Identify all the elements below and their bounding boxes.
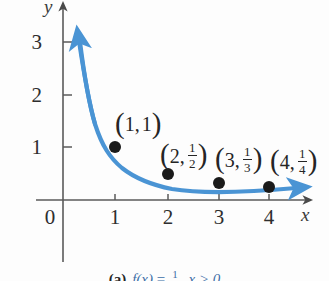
paren-close: ) — [253, 146, 263, 171]
coord-x: 2 — [170, 146, 180, 166]
fraction-one-third: 1 3 — [243, 145, 252, 175]
caption-letter: (a) — [109, 271, 127, 281]
y-tick-label-1: 1 — [22, 137, 42, 158]
x-tick-label-3: 3 — [208, 207, 230, 228]
point-label-1-1: ( 1 , 1 ) — [115, 112, 161, 137]
x-tick-label-1: 1 — [104, 207, 126, 228]
point-label-2-one-half: ( 2 , 1 2 ) — [160, 141, 207, 171]
caption-fraction: 1 x — [171, 269, 179, 281]
paren-open: ( — [115, 111, 125, 136]
fraction-numerator: 1 — [188, 141, 197, 154]
caption-function: f(x) — [132, 271, 153, 281]
fraction-denominator: 2 — [188, 157, 197, 170]
y-tick-label-3: 3 — [22, 32, 42, 53]
origin-label: 0 — [39, 207, 61, 228]
fraction-one-fourth: 1 4 — [298, 147, 307, 177]
fraction-denominator: 4 — [298, 163, 307, 176]
fraction-numerator: 1 — [243, 145, 252, 158]
x-tick-label-4: 4 — [258, 207, 280, 228]
paren-close: ) — [308, 148, 318, 173]
paren-open: ( — [215, 146, 225, 171]
paren-close: ) — [198, 142, 208, 167]
point-label-3-one-third: ( 3 , 1 3 ) — [215, 145, 262, 175]
coord-y: 1 — [142, 114, 152, 134]
data-point-1-1 — [109, 141, 121, 153]
coord-x: 4 — [280, 152, 290, 172]
paren-open: ( — [270, 148, 280, 173]
fraction-denominator: 3 — [243, 161, 252, 174]
x-axis — [36, 194, 306, 200]
point-label-4-one-fourth: ( 4 , 1 4 ) — [270, 147, 317, 177]
coord-comma: , — [235, 150, 240, 170]
data-point-3-one-third — [213, 177, 225, 189]
figure-container: y x 3 2 1 0 1 2 3 4 ( 1 , 1 ) ( 2 , 1 2 … — [0, 0, 329, 281]
x-tick-label-2: 2 — [157, 207, 179, 228]
function-curve-upper-arrow — [79, 41, 95, 124]
y-tick-label-2: 2 — [22, 85, 42, 106]
y-axis — [63, 8, 72, 262]
caption-equals: = — [157, 271, 165, 281]
coord-comma: , — [290, 152, 295, 172]
coord-x: 3 — [225, 150, 235, 170]
y-axis-label: y — [44, 0, 52, 16]
paren-open: ( — [160, 142, 170, 167]
coord-comma: , — [180, 146, 185, 166]
data-point-4-one-fourth — [263, 181, 275, 193]
x-axis-label: x — [301, 205, 309, 224]
paren-close: ) — [152, 111, 162, 136]
coord-x: 1 — [125, 114, 135, 134]
fraction-numerator: 1 — [298, 147, 307, 160]
caption-domain: , x > 0 — [181, 271, 220, 281]
caption-fraction-numerator: 1 — [172, 269, 178, 281]
figure-caption: (a)f(x) = 1 x , x > 0 — [0, 269, 329, 281]
fraction-one-half: 1 2 — [188, 141, 197, 171]
coord-comma: , — [135, 114, 140, 134]
